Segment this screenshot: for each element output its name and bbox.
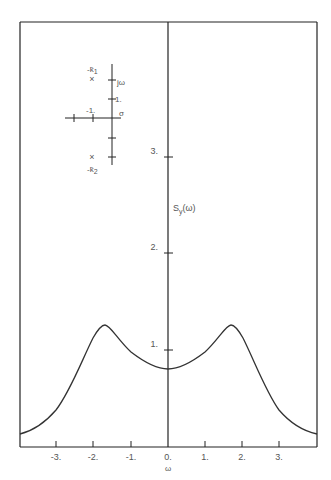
pole-1-label: -k̄1 xyxy=(87,65,98,75)
y-tick-label: 1. xyxy=(150,339,158,349)
pole-1-mark: × xyxy=(89,74,94,84)
plot-frame xyxy=(20,22,317,447)
inset-sigma-label: σ xyxy=(119,109,124,118)
x-tick-labels: -3. -2. -1. 0. 1. 2. 3. ω xyxy=(51,452,283,473)
x-tick-label: 2. xyxy=(238,452,246,462)
inset-minus-one-label: -1. xyxy=(86,106,95,115)
x-tick-label: -3. xyxy=(51,452,62,462)
spectral-density-chart: -3. -2. -1. 0. 1. 2. 3. ω 1. 2. 3. Sy(ω)… xyxy=(0,0,331,480)
y-axis-label: Sy(ω) xyxy=(173,203,196,216)
x-tick-label: -2. xyxy=(88,452,99,462)
inset-jw-label: jω xyxy=(116,78,125,87)
x-tick-label: 1. xyxy=(201,452,209,462)
y-tick-label: 3. xyxy=(150,146,158,156)
x-tick-label: -1. xyxy=(126,452,137,462)
pole-zero-inset: jω 1. σ -1. × -k̄1 × -k̄2 xyxy=(65,64,125,175)
y-tick-label: 2. xyxy=(150,242,158,252)
inset-one-label: 1. xyxy=(115,95,122,104)
y-tick-labels: 1. 2. 3. xyxy=(150,146,158,349)
x-tick-label: 0. xyxy=(164,452,172,462)
x-tick-label: 3. xyxy=(275,452,283,462)
x-axis-label: ω xyxy=(165,464,171,473)
pole-2-label: -k̄2 xyxy=(87,165,98,175)
pole-2-mark: × xyxy=(89,152,94,162)
